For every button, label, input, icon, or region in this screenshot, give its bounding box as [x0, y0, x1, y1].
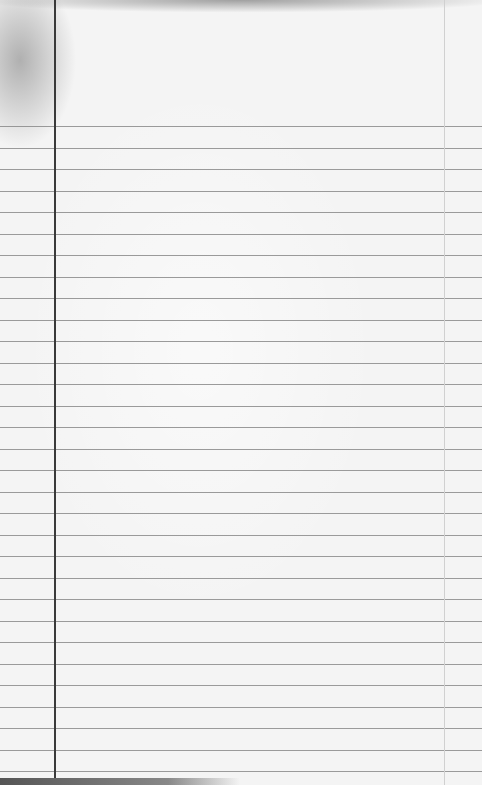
ruled-line — [0, 277, 482, 278]
ruled-line — [0, 449, 482, 450]
ruled-line — [0, 707, 482, 708]
ruled-line — [0, 578, 482, 579]
ruled-line — [0, 750, 482, 751]
ruled-line — [0, 363, 482, 364]
ruled-line — [0, 728, 482, 729]
ruled-line — [0, 427, 482, 428]
ruled-line — [0, 535, 482, 536]
ruled-line — [0, 255, 482, 256]
ruled-line — [0, 341, 482, 342]
ruled-line — [0, 621, 482, 622]
ruled-line — [0, 556, 482, 557]
ruled-line — [0, 148, 482, 149]
ruled-line — [0, 298, 482, 299]
faint-right-line — [444, 0, 445, 785]
ruled-line — [0, 191, 482, 192]
ruled-line — [0, 685, 482, 686]
ruled-line — [0, 599, 482, 600]
margin-line — [54, 0, 56, 785]
ruled-line — [0, 492, 482, 493]
ruled-line — [0, 513, 482, 514]
ruled-line — [0, 642, 482, 643]
lined-paper — [0, 0, 482, 785]
ruled-line — [0, 169, 482, 170]
ruled-line — [0, 126, 482, 127]
bottom-edge-shadow — [0, 778, 240, 785]
ruled-line — [0, 212, 482, 213]
ruled-line — [0, 406, 482, 407]
ruled-line — [0, 470, 482, 471]
ruled-line — [0, 320, 482, 321]
ruled-line — [0, 384, 482, 385]
ruled-line — [0, 234, 482, 235]
ruled-line — [0, 771, 482, 772]
ruled-line — [0, 664, 482, 665]
